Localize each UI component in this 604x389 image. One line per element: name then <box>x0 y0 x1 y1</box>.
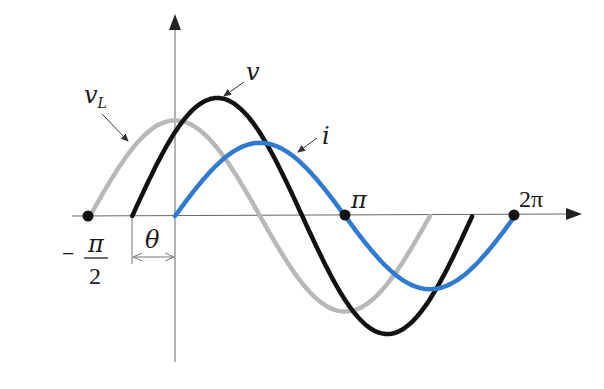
neg-sign: − <box>62 241 74 266</box>
point-neg-half-pi <box>83 211 94 222</box>
v-label: v <box>246 58 260 86</box>
x-axis-arrow-icon <box>566 208 582 220</box>
v-leader <box>224 82 244 96</box>
vL-leader <box>102 114 128 141</box>
i-leader <box>298 138 317 152</box>
half-pi-denominator: 2 <box>89 263 101 289</box>
pi-label: π <box>350 186 368 214</box>
half-pi-numerator: π <box>87 230 105 258</box>
phasor-waveform-diagram: θ − π 2 π 2π v vL i <box>0 0 604 389</box>
point-pi <box>340 210 351 221</box>
point-two-pi <box>509 210 520 221</box>
theta-label: θ <box>145 226 160 254</box>
vL-label: vL <box>84 81 107 111</box>
two-pi-label: 2π <box>519 186 543 212</box>
y-axis-arrow-icon <box>169 14 181 30</box>
i-label: i <box>322 122 330 150</box>
x-axis <box>72 214 568 216</box>
